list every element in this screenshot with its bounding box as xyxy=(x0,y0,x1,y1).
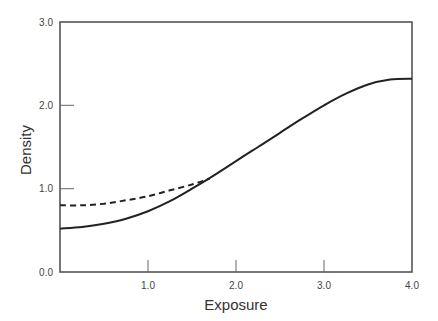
y-tick-label-2: 2.0 xyxy=(39,100,53,111)
y-axis-label: Density xyxy=(17,124,34,175)
x-tick-label-3: 3.0 xyxy=(317,280,331,291)
y-tick-label-3: 3.0 xyxy=(39,17,53,28)
y-tick-label-0: 0.0 xyxy=(39,267,53,278)
x-tick-label-1: 1.0 xyxy=(141,280,155,291)
x-axis-label: Exposure xyxy=(204,296,267,313)
y-tick-label-1: 1.0 xyxy=(39,183,53,194)
plot-frame xyxy=(60,22,412,272)
density-exposure-chart: 0.0 1.0 2.0 3.0 1.0 2.0 3.0 4.0 Exposure… xyxy=(0,0,438,321)
x-tick-label-4: 4.0 xyxy=(405,280,419,291)
x-tick-label-2: 2.0 xyxy=(229,280,243,291)
solid-curve xyxy=(60,79,412,229)
